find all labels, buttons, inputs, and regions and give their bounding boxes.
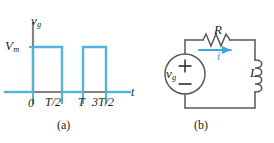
amplitude-label: Vm (5, 39, 19, 52)
inductor-label: L (250, 66, 257, 79)
amplitude-label-text: V (5, 38, 13, 53)
y-axis-label: vg (31, 14, 41, 27)
current-arrow-icon (199, 46, 231, 54)
y-axis-label-subscript: g (37, 20, 41, 29)
figure-container: vg Vm 0 T/2 T 3T/2 t (a) (0, 0, 274, 143)
x-axis-label: t (131, 86, 134, 98)
x-tick-label-t-half: T/2 (45, 96, 61, 108)
x-tick-label-3t-half: 3T/2 (92, 96, 114, 108)
amplitude-label-subscript: m (13, 45, 19, 54)
panel-a-waveform: vg Vm 0 T/2 T 3T/2 t (a) (0, 0, 137, 143)
source-label-subscript: g (172, 73, 176, 82)
waveform-pulse-2 (83, 47, 106, 92)
panel-b-caption: (b) (194, 119, 208, 131)
panel-b-circuit: R i L vg (b) (137, 0, 274, 143)
resistor-label: R (214, 23, 222, 36)
x-tick-label-0: 0 (28, 97, 34, 109)
y-axis-label-text: v (31, 13, 37, 28)
source-plus-icon (179, 60, 191, 72)
panel-a-caption: (a) (57, 119, 70, 131)
current-label: i (217, 50, 220, 62)
x-tick-label-t: T (78, 96, 85, 108)
waveform-pulse-1 (33, 47, 62, 92)
source-label: vg (166, 67, 176, 80)
source-label-text: v (166, 66, 172, 81)
